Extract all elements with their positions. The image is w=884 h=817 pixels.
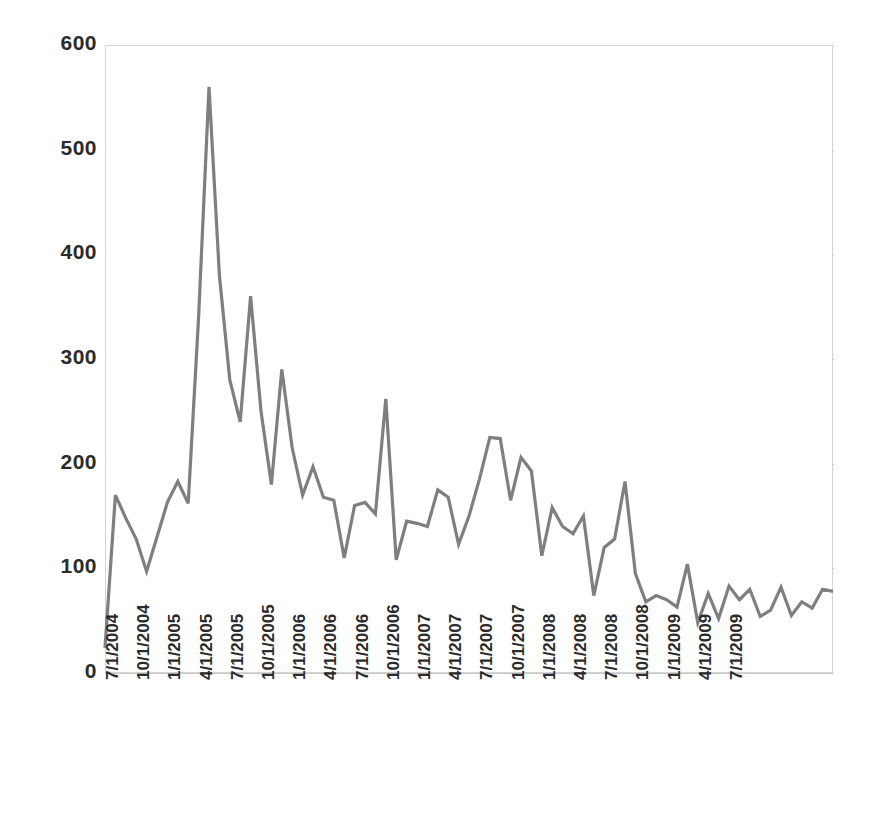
x-axis-labels: 7/1/200410/1/20041/1/20054/1/20057/1/200… <box>0 0 884 817</box>
line-chart: 0100200300400500600 7/1/200410/1/20041/1… <box>0 0 884 817</box>
